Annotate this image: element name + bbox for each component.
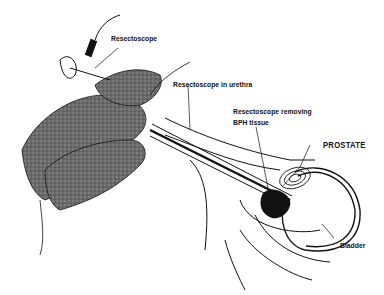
resectoscope-handle xyxy=(60,15,120,80)
label-bladder: Bladder xyxy=(340,241,365,250)
bladder-outline xyxy=(282,168,360,251)
label-resectoscope: Resectoscope xyxy=(111,34,157,43)
label-resectoscope-in-urethra: Resectoscope in urethra xyxy=(173,80,252,89)
label-resectoscope-removing-line2: BPH tissue xyxy=(233,118,269,127)
label-resectoscope-removing-line1: Resectoscope removing xyxy=(233,107,312,116)
label-prostate: PROSTATE xyxy=(323,141,366,150)
